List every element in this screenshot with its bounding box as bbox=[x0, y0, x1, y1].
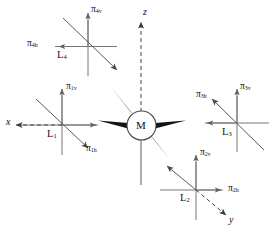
diagram-canvas: π4v π4h L4 π1v π1h L1 x M z π3v π3h L3 π… bbox=[0, 0, 269, 238]
frame-L2 bbox=[160, 155, 226, 220]
label-M: M bbox=[136, 120, 146, 131]
label-L1: L1 bbox=[47, 129, 57, 140]
spike-upper-left bbox=[112, 88, 135, 117]
frame-L3 bbox=[205, 89, 269, 152]
label-axis-z: z bbox=[143, 7, 147, 17]
label-pi-4h: π4h bbox=[27, 39, 38, 49]
frame-L4 bbox=[55, 13, 117, 76]
label-L3: L3 bbox=[222, 127, 232, 138]
label-pi-2v: π2v bbox=[200, 148, 211, 158]
spike-right bbox=[155, 121, 186, 129]
label-pi-1v: π1v bbox=[66, 82, 77, 92]
label-pi-1h: π1h bbox=[86, 144, 97, 154]
label-pi-3v: π3v bbox=[240, 82, 251, 92]
spike-left bbox=[98, 121, 128, 129]
label-axis-x: x bbox=[6, 117, 10, 127]
label-axis-y: y bbox=[229, 215, 233, 225]
label-L4: L4 bbox=[57, 50, 67, 61]
label-pi-2h: π2h bbox=[228, 184, 239, 194]
diagram-vector-layer bbox=[0, 0, 269, 238]
label-pi-3h: π3h bbox=[196, 90, 207, 100]
label-L2: L2 bbox=[180, 193, 190, 204]
label-pi-4v: π4v bbox=[91, 5, 102, 15]
